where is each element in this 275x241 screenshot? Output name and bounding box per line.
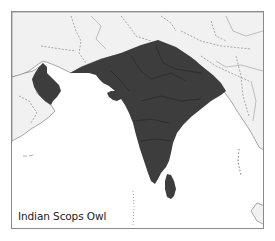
- range-sri-lanka: [165, 174, 176, 199]
- small-islands: [23, 155, 33, 156]
- map-canvas: [12, 12, 264, 229]
- maldives-islands: [133, 191, 134, 226]
- andaman-islands: [238, 149, 241, 176]
- species-name-label: Indian Scops Owl: [18, 210, 106, 222]
- range-map: Indian Scops Owl: [11, 11, 264, 229]
